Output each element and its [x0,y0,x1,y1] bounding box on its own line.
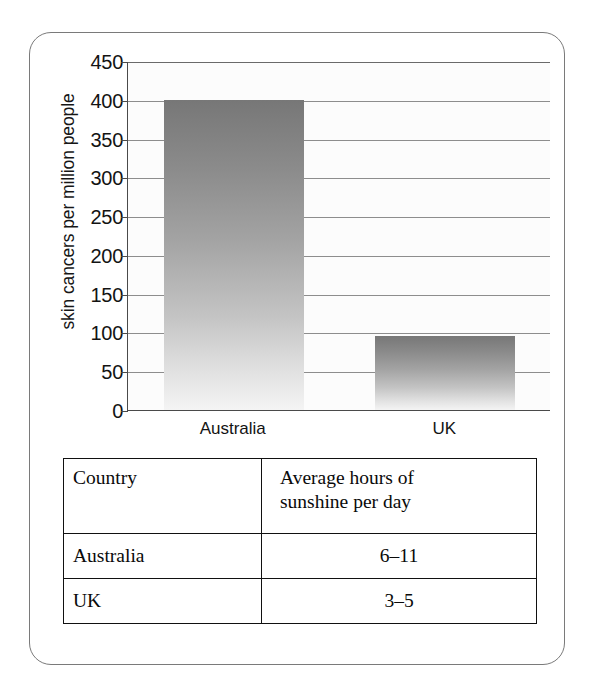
plot-area [127,62,550,411]
x-tick-label: UK [432,419,456,439]
x-tick-label: Australia [200,419,266,439]
y-tick-mark [121,333,128,334]
y-tick-mark [121,62,128,63]
y-tick-label: 250 [60,207,123,227]
header-sunshine-line1: Average hours of [280,466,528,490]
table-header-row: Country Average hours of sunshine per da… [64,459,537,534]
table-row: UK 3–5 [64,579,537,624]
y-tick-label: 400 [60,91,123,111]
y-tick-mark [121,140,128,141]
y-tick-label: 0 [60,401,123,421]
bar-chart: skin cancers per million people 05010015… [30,33,566,433]
y-tick-mark [121,256,128,257]
header-sunshine-line2: sunshine per day [280,490,528,514]
y-tick-label: 450 [60,52,123,72]
row-country-uk: UK [64,579,262,624]
y-tick-label: 350 [60,130,123,150]
row-country-australia: Australia [64,534,262,579]
plot-top-border [128,62,550,63]
table-row: Australia 6–11 [64,534,537,579]
row-sunshine-australia: 6–11 [262,534,537,579]
header-cell-country: Country [64,459,262,534]
y-axis-tick-labels: 050100150200250300350400450 [60,33,123,413]
row-sunshine-uk: 3–5 [262,579,537,624]
y-tick-label: 300 [60,168,123,188]
y-tick-label: 50 [60,362,123,382]
y-tick-mark [121,101,128,102]
figure-frame: skin cancers per million people 05010015… [29,32,565,665]
y-tick-label: 200 [60,246,123,266]
y-tick-mark [121,178,128,179]
bar-australia [164,100,304,410]
y-tick-label: 100 [60,323,123,343]
y-tick-mark [121,372,128,373]
header-cell-sunshine: Average hours of sunshine per day [262,459,537,534]
y-tick-label: 150 [60,285,123,305]
y-tick-mark [121,411,128,412]
bar-uk [375,336,515,410]
y-tick-mark [121,295,128,296]
sunshine-data-table: Country Average hours of sunshine per da… [63,458,537,624]
y-tick-mark [121,217,128,218]
